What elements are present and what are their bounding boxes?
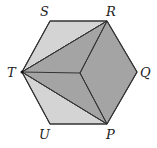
vertex-t-dot <box>21 71 24 74</box>
label-s: S <box>40 4 49 19</box>
label-t: T <box>7 65 17 80</box>
label-q: Q <box>140 65 151 80</box>
label-r: R <box>105 4 116 19</box>
hexagon-diagram: S R Q P U T <box>0 0 157 148</box>
label-p: P <box>105 127 115 142</box>
label-u: U <box>39 127 51 142</box>
